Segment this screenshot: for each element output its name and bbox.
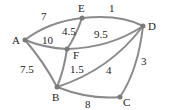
weight-e-f: 4.5: [62, 25, 76, 37]
weight-a-b: 7.5: [20, 63, 34, 75]
node-label-e: E: [78, 2, 85, 14]
node-label-d: D: [148, 20, 156, 32]
edge-b-c: [57, 87, 120, 98]
node-label-b: B: [52, 91, 59, 103]
edge-e-d: [82, 17, 143, 26]
weighted-graph: A E D F B C 7 1 10 4.5 9.5 7.5 1.5 4 3 8: [0, 0, 169, 110]
node-c: [118, 95, 123, 100]
node-label-a: A: [12, 34, 20, 46]
node-b: [55, 85, 60, 90]
node-e: [80, 16, 85, 21]
weight-f-d: 9.5: [94, 28, 108, 40]
weight-a-e: 7: [41, 10, 47, 22]
weight-b-d: 4: [106, 64, 112, 76]
weight-a-f: 10: [42, 34, 54, 46]
node-f: [65, 47, 70, 52]
node-a: [23, 38, 28, 43]
node-d: [141, 24, 146, 29]
node-label-f: F: [73, 49, 79, 61]
weight-f-b: 1.5: [70, 63, 84, 75]
weight-d-c: 3: [141, 55, 147, 67]
weight-b-c: 8: [85, 98, 91, 110]
weight-e-d: 1: [109, 2, 115, 14]
node-label-c: C: [123, 96, 130, 108]
edge-f-b: [57, 49, 67, 87]
